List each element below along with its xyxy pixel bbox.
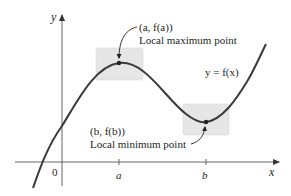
function-graph: y x 0 a b (a, f(a)) Local maximum point … (0, 0, 291, 196)
local-min-highlight-box (183, 104, 229, 135)
local-max-description: Local maximum point (139, 34, 237, 46)
curve-label: y = f(x) (205, 66, 239, 79)
local-max-coord-label: (a, f(a)) (139, 21, 173, 34)
local-max-point (117, 61, 121, 65)
y-axis-label: y (50, 10, 57, 24)
x-axis-label: x (268, 165, 275, 179)
tick-label-a: a (116, 169, 122, 181)
local-min-point (204, 120, 208, 124)
local-min-coord-label: (b, f(b)) (90, 125, 125, 138)
tick-label-b: b (202, 169, 208, 181)
origin-label: 0 (52, 166, 58, 178)
local-min-description: Local minimum point (90, 138, 186, 150)
